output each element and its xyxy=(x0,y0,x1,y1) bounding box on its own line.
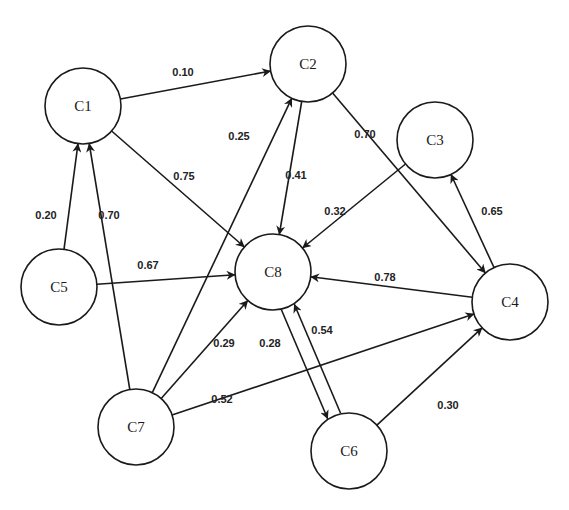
edge-weight-label: 0.54 xyxy=(311,324,333,336)
edge-weight-label: 0.70 xyxy=(98,209,119,221)
edge-c7-to-c8 xyxy=(161,301,248,399)
edge-c4-to-c3 xyxy=(451,175,494,268)
node-label: C4 xyxy=(501,294,519,310)
edge-weight-label: 0.65 xyxy=(481,205,502,217)
node-label: C7 xyxy=(127,419,145,435)
node-c5: C5 xyxy=(21,249,97,325)
edge-c1-to-c2 xyxy=(120,71,270,99)
edge-c3-to-c8 xyxy=(303,164,406,248)
edge-weight-label: 0.29 xyxy=(213,337,234,349)
edge-c5-to-c8 xyxy=(97,275,235,285)
edge-weight-label: 0.25 xyxy=(228,130,249,142)
node-label: C5 xyxy=(50,279,68,295)
edge-c2-to-c8 xyxy=(279,102,301,235)
edge-weight-label: 0.10 xyxy=(172,66,193,78)
fcm-diagram: C1C2C3C4C5C6C7C8 0.100.750.410.700.320.6… xyxy=(0,0,569,510)
node-c2: C2 xyxy=(270,26,346,102)
node-label: C6 xyxy=(340,443,358,459)
node-label: C1 xyxy=(74,98,92,114)
edge-weight-label: 0.52 xyxy=(211,393,232,405)
edge-c7-to-c1 xyxy=(89,144,130,390)
edge-weight-label: 0.67 xyxy=(137,259,158,271)
edge-c5-to-c1 xyxy=(64,144,78,250)
edge-weight-label: 0.78 xyxy=(374,271,395,283)
node-c8: C8 xyxy=(235,234,311,310)
edge-c1-to-c8 xyxy=(112,131,245,247)
node-c3: C3 xyxy=(397,102,473,178)
nodes-layer: C1C2C3C4C5C6C7C8 xyxy=(21,26,548,489)
edge-weight-label: 0.20 xyxy=(35,209,56,221)
node-c1: C1 xyxy=(45,68,121,144)
node-label: C2 xyxy=(299,56,317,72)
node-label: C8 xyxy=(264,264,282,280)
edge-weight-label: 0.28 xyxy=(259,337,280,349)
node-label: C3 xyxy=(426,132,444,148)
node-c7: C7 xyxy=(98,389,174,465)
edge-weight-label: 0.41 xyxy=(285,169,306,181)
node-c4: C4 xyxy=(472,264,548,340)
node-c6: C6 xyxy=(311,413,387,489)
edge-weight-label: 0.30 xyxy=(437,399,458,411)
edge-weight-label: 0.32 xyxy=(324,205,345,217)
edge-weight-label: 0.75 xyxy=(173,170,194,182)
edge-c6-to-c4 xyxy=(377,328,482,425)
edge-weight-label: 0.70 xyxy=(354,128,375,140)
edge-c6-to-c8 xyxy=(294,304,340,413)
